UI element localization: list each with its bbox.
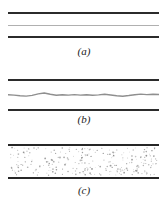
panel-c-speckle-field xyxy=(8,144,159,179)
panel-b-wavy-line xyxy=(8,79,159,111)
panel-a-upper-wall xyxy=(8,12,159,14)
panel-a xyxy=(0,0,168,68)
panel-c-lower-wall xyxy=(8,177,159,179)
panel-b xyxy=(0,68,168,136)
panel-b-caption: (b) xyxy=(0,113,168,125)
panel-c-caption: (c) xyxy=(0,184,168,196)
panel-a-center-line xyxy=(8,25,159,26)
panel-b-lower-wall xyxy=(8,109,159,111)
panel-a-lower-wall xyxy=(8,36,159,38)
panel-b-plot-area xyxy=(8,79,159,111)
panel-c xyxy=(0,136,168,207)
panel-a-plot-area xyxy=(8,12,159,38)
figure-container: (a) (b) (c) xyxy=(0,0,168,207)
panel-a-caption: (a) xyxy=(0,45,168,57)
panel-c-plot-area xyxy=(8,144,159,179)
